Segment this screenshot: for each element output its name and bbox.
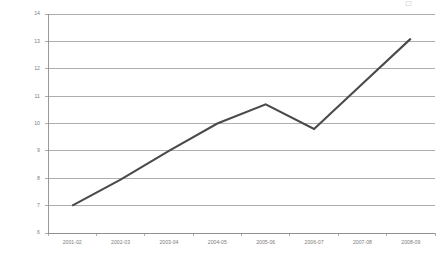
x-axis-tick-label: 2004-05 <box>208 239 227 245</box>
x-axis-tick-label: 2007-08 <box>353 239 372 245</box>
y-axis-tick-label: 6 <box>37 229 40 235</box>
x-axis-tick-label: 2006-07 <box>305 239 324 245</box>
x-axis-tick-label: 2002-03 <box>111 239 130 245</box>
y-axis-tick-label: 11 <box>35 93 40 99</box>
y-axis-tick-label: 13 <box>34 38 40 44</box>
chart-background <box>0 0 445 263</box>
x-axis-tick-label: 2001-02 <box>63 239 82 245</box>
y-axis-tick-label: 14 <box>34 10 40 16</box>
y-axis-tick-label: 9 <box>37 147 40 153</box>
x-axis-tick-label: 2005-06 <box>256 239 275 245</box>
line-chart: 67891011121314 2001-022002-032003-042004… <box>0 0 445 263</box>
y-axis-tick-label: 10 <box>34 120 40 126</box>
chart-canvas: 67891011121314 2001-022002-032003-042004… <box>0 0 445 263</box>
y-axis-tick-label: 7 <box>37 202 40 208</box>
y-axis-tick-label: 12 <box>34 65 40 71</box>
x-axis-tick-label: 2008-09 <box>401 239 420 245</box>
x-axis-tick-label: 2003-04 <box>159 239 178 245</box>
y-axis-tick-label: 8 <box>37 175 40 181</box>
